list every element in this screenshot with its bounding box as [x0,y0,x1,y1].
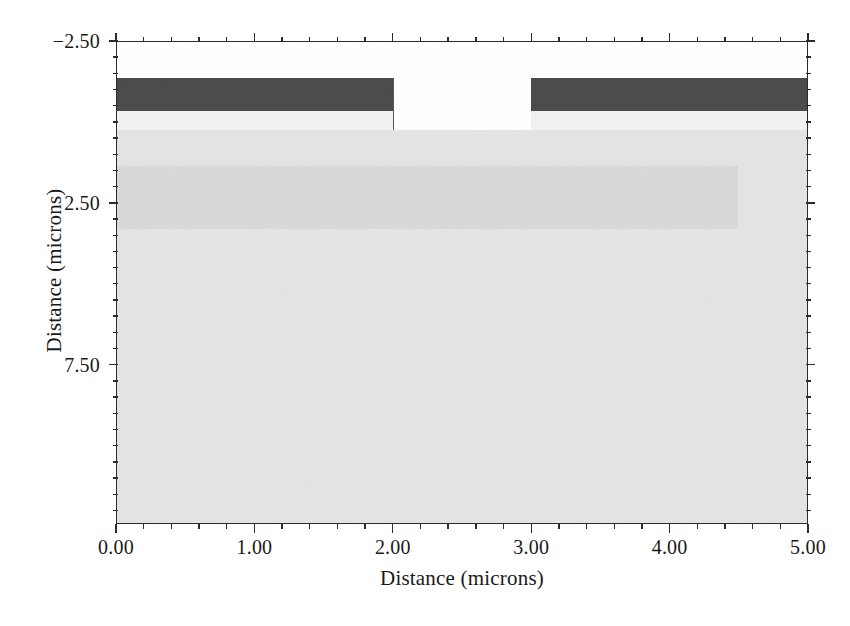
x-minor-tick [226,524,227,529]
y-tick-label: 7.50 [64,354,100,376]
x-tick-label: 1.00 [236,536,272,558]
x-minor-tick [697,524,698,529]
x-minor-tick [143,524,144,529]
x-major-tick [115,524,116,533]
x-minor-tick [614,524,615,529]
x-minor-tick [337,524,338,529]
x-minor-tick [503,524,504,529]
y-tick-label: 2.50 [64,192,100,214]
x-minor-tick [420,524,421,529]
x-minor-tick [724,524,725,529]
x-minor-tick [586,524,587,529]
x-minor-tick [364,524,365,529]
x-axis-title: Distance (microns) [116,566,808,591]
x-axis-ticks-bottom [116,524,808,536]
x-tick-label: 3.00 [513,536,549,558]
y-tick-label: −2.50 [53,30,100,52]
figure-canvas: 0.001.002.003.004.005.00 −2.502.507.50 D… [0,0,850,626]
x-minor-tick [558,524,559,529]
x-major-tick [254,524,255,533]
x-minor-tick [780,524,781,529]
x-minor-tick [475,524,476,529]
x-minor-tick [752,524,753,529]
x-minor-tick [447,524,448,529]
x-tick-label: 4.00 [652,536,688,558]
y-axis-title: Distance (microns) [42,111,67,431]
paper-grain-overlay [117,42,807,523]
x-minor-tick [309,524,310,529]
x-major-tick [531,524,532,533]
x-major-tick [669,524,670,533]
x-minor-tick [171,524,172,529]
x-tick-label: 0.00 [98,536,134,558]
x-minor-tick [198,524,199,529]
cross-section-render [117,42,807,523]
x-tick-label: 2.00 [375,536,411,558]
x-minor-tick [281,524,282,529]
plot-area [116,41,808,524]
x-minor-tick [641,524,642,529]
x-major-tick [392,524,393,533]
x-major-tick [807,524,808,533]
x-tick-label: 5.00 [790,536,826,558]
